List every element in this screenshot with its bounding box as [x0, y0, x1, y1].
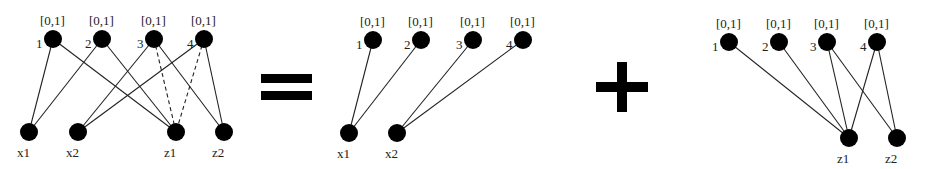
- node-4: [195, 30, 213, 48]
- x-component-graph: [0,1]1[0,1]2[0,1]3[0,1]4x1x2: [337, 14, 535, 161]
- equals-sign: [261, 74, 312, 100]
- node-3: [818, 33, 836, 51]
- interval-label: [0,1]: [89, 13, 114, 28]
- interval-label: [0,1]: [141, 13, 166, 28]
- node-label: z2: [212, 145, 224, 160]
- node-1: [720, 33, 738, 51]
- interval-label: [0,1]: [766, 16, 791, 31]
- interval-label: [0,1]: [460, 14, 485, 29]
- edge-4-x2: [397, 40, 523, 133]
- graph-decomposition-diagram: [0,1]1[0,1]2[0,1]3[0,1]4x1x2z1z2 [0,1]1[…: [0, 0, 929, 169]
- node-1: [44, 30, 62, 48]
- node-label: x2: [66, 145, 79, 160]
- node-label: 1: [356, 37, 363, 52]
- node-label: 1: [36, 36, 43, 51]
- node-label: x1: [17, 145, 30, 160]
- node-z1: [167, 123, 185, 141]
- edge-3-x2: [397, 40, 473, 133]
- node-label: 3: [456, 37, 463, 52]
- full-bipartite-graph: [0,1]1[0,1]2[0,1]3[0,1]4x1x2z1z2: [17, 13, 233, 160]
- edge-1-x1: [349, 40, 373, 133]
- node-label: 3: [810, 39, 817, 54]
- interval-label: [0,1]: [360, 14, 385, 29]
- node-4: [868, 33, 886, 51]
- node-x1: [20, 123, 38, 141]
- edge-1-x1: [29, 39, 53, 132]
- node-x2: [69, 123, 87, 141]
- z-component-graph: [0,1]1[0,1]2[0,1]3[0,1]4z1z2: [712, 16, 906, 166]
- interval-label: [0,1]: [191, 13, 216, 28]
- node-2: [770, 33, 788, 51]
- interval-label: [0,1]: [716, 16, 741, 31]
- edge-4-x2: [78, 39, 204, 132]
- node-label: 2: [404, 37, 411, 52]
- interval-label: [0,1]: [814, 16, 839, 31]
- node-x2: [388, 124, 406, 142]
- node-z2: [215, 123, 233, 141]
- edge-4-z1: [849, 42, 877, 138]
- node-4: [514, 31, 532, 49]
- node-label: z2: [885, 151, 897, 166]
- node-label: 3: [137, 36, 144, 51]
- node-z1: [840, 129, 858, 147]
- node-label: 1: [712, 39, 719, 54]
- interval-label: [0,1]: [408, 14, 433, 29]
- edge-2-x1: [29, 39, 102, 132]
- edge-4-z1: [176, 39, 204, 132]
- interval-label: [0,1]: [864, 16, 889, 31]
- node-3: [464, 31, 482, 49]
- plus-sign: [596, 62, 648, 112]
- node-2: [412, 31, 430, 49]
- node-label: z1: [837, 151, 849, 166]
- node-2: [93, 30, 111, 48]
- node-3: [145, 30, 163, 48]
- node-label: 2: [762, 39, 769, 54]
- node-1: [364, 31, 382, 49]
- interval-label: [0,1]: [40, 13, 65, 28]
- edge-3-x2: [78, 39, 154, 132]
- node-label: 4: [187, 36, 194, 51]
- node-x1: [340, 124, 358, 142]
- interval-label: [0,1]: [510, 14, 535, 29]
- node-label: 4: [860, 39, 867, 54]
- edge-2-x1: [349, 40, 421, 133]
- node-label: 4: [506, 37, 513, 52]
- node-label: z1: [164, 145, 176, 160]
- node-label: x2: [385, 146, 398, 161]
- node-label: x1: [337, 146, 350, 161]
- node-z2: [888, 129, 906, 147]
- node-label: 2: [85, 36, 92, 51]
